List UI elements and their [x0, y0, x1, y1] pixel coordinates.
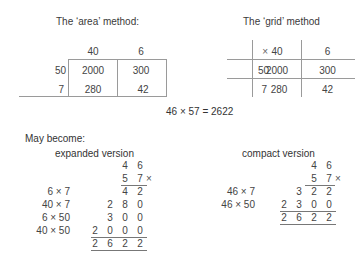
digit: 2 [104, 199, 116, 210]
digit: 2 [308, 186, 320, 197]
equation: 46 × 57 = 2622 [166, 106, 233, 117]
grid-vline-1 [252, 40, 253, 97]
times-sign: × [146, 173, 152, 184]
digit: 2 [323, 186, 335, 197]
digit: 0 [308, 199, 320, 210]
grid-cell: 2000 [252, 65, 302, 76]
grid-cell: 300 [300, 65, 355, 76]
area-cell: 42 [119, 84, 167, 95]
area-row-header: 50 [40, 65, 66, 76]
underline [280, 224, 336, 225]
digit: 0 [134, 212, 146, 223]
digit: 2 [278, 199, 290, 210]
total-digit: 2 [134, 238, 146, 249]
digit: 3 [293, 186, 305, 197]
grid-vline-2 [301, 40, 302, 97]
digit: 4 [119, 160, 131, 171]
total-digit: 2 [278, 212, 290, 223]
digit: 0 [104, 225, 116, 236]
grid-cell: 42 [300, 84, 355, 95]
digit: 0 [323, 199, 335, 210]
digit: 7 [134, 173, 146, 184]
total-digit: 6 [104, 238, 116, 249]
grid-col-header: 40 [253, 46, 301, 57]
digit: 6 [134, 160, 146, 171]
total-digit: 2 [323, 212, 335, 223]
digit: 3 [293, 199, 305, 210]
area-row-header: 7 [40, 84, 64, 95]
partial-label: 46 × 7 [195, 186, 255, 197]
area-cell: 2000 [69, 65, 117, 76]
digit: 7 [323, 173, 335, 184]
digit: 8 [119, 199, 131, 210]
partial-label: 40 × 7 [10, 199, 70, 210]
partial-label: 46 × 50 [195, 199, 255, 210]
grid-hline-1 [227, 59, 355, 60]
total-digit: 2 [308, 212, 320, 223]
times-sign: × [335, 173, 341, 184]
grid-col-header: 6 [300, 46, 355, 57]
grid-hline-2 [227, 78, 355, 79]
area-method-title: The ‘area’ method: [56, 16, 139, 27]
total-digit: 2 [89, 238, 101, 249]
digit: 4 [308, 160, 320, 171]
area-col-header: 40 [69, 46, 117, 57]
digit: 3 [104, 212, 116, 223]
digit: 0 [134, 225, 146, 236]
area-cell: 300 [117, 65, 165, 76]
digit: 2 [89, 225, 101, 236]
grid-method-title: The ‘grid’ method [243, 16, 320, 27]
total-digit: 6 [293, 212, 305, 223]
digit: 0 [134, 199, 146, 210]
digit: 0 [119, 225, 131, 236]
expanded-version-title: expanded version [55, 148, 134, 159]
area-col-header: 6 [117, 46, 165, 57]
partial-label: 40 × 50 [10, 225, 70, 236]
digit: 2 [134, 186, 146, 197]
area-baseline [19, 96, 167, 97]
area-box-right [166, 59, 167, 97]
digit: 5 [119, 173, 131, 184]
area-cell: 280 [69, 84, 117, 95]
compact-version-title: compact version [242, 148, 315, 159]
area-box-mid [117, 59, 118, 97]
digit: 0 [119, 212, 131, 223]
total-digit: 2 [119, 238, 131, 249]
underline [91, 250, 147, 251]
partial-label: 6 × 7 [10, 186, 70, 197]
digit: 6 [323, 160, 335, 171]
area-box-left [68, 59, 69, 97]
may-become-label: May become: [25, 133, 85, 144]
grid-cell: 280 [254, 84, 304, 95]
digit: 5 [308, 173, 320, 184]
digit: 4 [119, 186, 131, 197]
partial-label: 6 × 50 [10, 212, 70, 223]
